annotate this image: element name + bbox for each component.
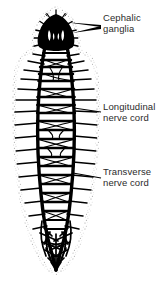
label-transverse-nerve-cord-line2: nerve cord <box>103 177 151 188</box>
label-cephalic-ganglia: Cephalic ganglia <box>103 12 141 34</box>
label-longitudinal-nerve-cord-line1: Longitudinal <box>103 101 155 112</box>
planarian-diagram <box>0 0 165 292</box>
label-cephalic-ganglia-line2: ganglia <box>103 23 141 34</box>
label-longitudinal-nerve-cord-line2: nerve cord <box>103 112 155 123</box>
label-longitudinal-nerve-cord: Longitudinal nerve cord <box>103 101 155 123</box>
label-transverse-nerve-cord: Transverse nerve cord <box>103 166 151 188</box>
label-cephalic-ganglia-line1: Cephalic <box>103 12 141 23</box>
label-transverse-nerve-cord-line1: Transverse <box>103 166 151 177</box>
planarian-nervous-system-figure: Cephalic ganglia Longitudinal nerve cord… <box>0 0 165 292</box>
